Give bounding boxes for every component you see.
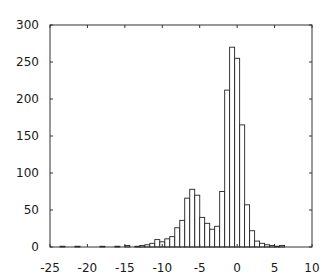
histogram-bar <box>255 241 260 247</box>
y-tick-label: 300 <box>16 18 39 32</box>
x-tick-label: 10 <box>304 261 319 275</box>
histogram-bar <box>205 223 210 247</box>
histogram-bar <box>230 47 235 247</box>
histogram-bar <box>220 192 225 248</box>
histogram-bar <box>215 226 220 247</box>
histogram-bar <box>250 231 255 247</box>
histogram-bars <box>60 47 285 247</box>
histogram-bar <box>195 195 200 247</box>
histogram-bar <box>185 198 190 247</box>
x-tick-label: -25 <box>40 261 60 275</box>
histogram-bar <box>165 239 170 247</box>
histogram-bar <box>200 217 205 247</box>
plot-frame <box>50 25 312 247</box>
x-tick-label: -10 <box>152 261 172 275</box>
histogram-bar <box>155 240 160 247</box>
x-tick-label: 0 <box>233 261 241 275</box>
histogram-bar <box>170 237 175 247</box>
histogram-bar <box>190 189 195 247</box>
histogram-bar <box>225 90 230 247</box>
x-tick-label: -15 <box>115 261 135 275</box>
x-tick-label: -20 <box>78 261 98 275</box>
histogram-bar <box>260 243 265 247</box>
y-tick-label: 200 <box>16 92 39 106</box>
histogram-bar <box>240 125 245 247</box>
histogram-bar <box>245 205 250 247</box>
x-tick-label: 5 <box>271 261 279 275</box>
y-tick-label: 250 <box>16 55 39 69</box>
y-tick-label: 50 <box>24 203 39 217</box>
histogram-bar <box>180 220 185 247</box>
histogram-bar <box>210 229 215 247</box>
histogram-chart: -25-20-15-10-50510 050100150200250300 <box>0 0 332 279</box>
y-tick-label: 0 <box>31 240 39 254</box>
y-axis: 050100150200250300 <box>16 18 312 254</box>
y-tick-label: 100 <box>16 166 39 180</box>
y-tick-label: 150 <box>16 129 39 143</box>
x-tick-label: -5 <box>194 261 206 275</box>
histogram-bar <box>235 58 240 247</box>
histogram-bar <box>175 228 180 247</box>
histogram-bar <box>150 243 155 247</box>
